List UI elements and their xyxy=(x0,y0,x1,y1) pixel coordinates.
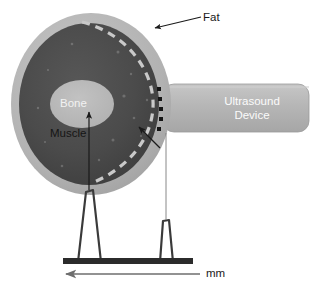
trace-baseline xyxy=(63,258,193,264)
transducer-element xyxy=(158,97,162,101)
transducer-element xyxy=(159,107,163,111)
transducer-element xyxy=(157,87,161,91)
limb-cross-section xyxy=(11,13,171,195)
device-highlight xyxy=(163,86,309,88)
device-body xyxy=(163,84,309,132)
diagram-canvas xyxy=(0,0,319,292)
transducer-element xyxy=(157,127,161,131)
fat-leader-line xyxy=(155,17,201,28)
echo-peak-interface xyxy=(160,220,173,262)
echo-peak-bone xyxy=(78,190,101,262)
transducer-element xyxy=(159,117,163,121)
ultrasound-device xyxy=(163,84,309,132)
ultrasound-limb-diagram: Fat Bone Muscle mm Ultrasound Device xyxy=(0,0,319,292)
bone-region xyxy=(50,80,114,128)
